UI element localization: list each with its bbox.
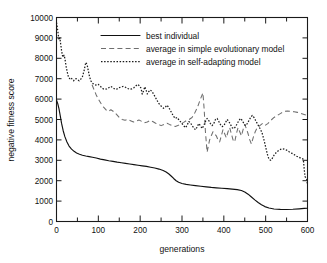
y-axis-tick-label: 9000 — [35, 34, 54, 43]
y-axis-tick-label: 6000 — [35, 95, 54, 104]
y-axis-tick-label: 1000 — [35, 197, 54, 206]
x-axis-tick-label: 300 — [175, 226, 189, 235]
figure-container: 0100020003000400050006000700080009000100… — [0, 0, 327, 263]
y-axis-tick-label: 10000 — [30, 14, 53, 23]
x-axis-tick-label: 100 — [91, 226, 105, 235]
y-axis-tick-label: 7000 — [35, 75, 54, 84]
legend-label: best individual — [146, 31, 199, 41]
x-axis-tick-label: 400 — [217, 226, 231, 235]
legend-label: average in self-adapting model — [146, 57, 261, 67]
y-axis-tick-label: 2000 — [35, 177, 54, 186]
y-axis-tick-label: 3000 — [35, 156, 54, 165]
legend-label: average in simple evolutionary model — [146, 44, 284, 54]
y-axis-tick-label: 0 — [48, 218, 53, 227]
x-axis-tick-label: 200 — [133, 226, 147, 235]
y-axis-tick-label: 5000 — [35, 116, 54, 125]
x-axis-tick-label: 0 — [54, 226, 59, 235]
x-axis-tick-label: 600 — [301, 226, 315, 235]
y-axis-title: negative fitness score — [6, 78, 16, 161]
y-axis-tick-label: 8000 — [35, 54, 54, 63]
x-axis-title: generations — [160, 244, 205, 254]
x-axis-tick-label: 500 — [259, 226, 273, 235]
fitness-score-line-chart: 0100020003000400050006000700080009000100… — [0, 0, 327, 263]
y-axis-tick-label: 4000 — [35, 136, 54, 145]
